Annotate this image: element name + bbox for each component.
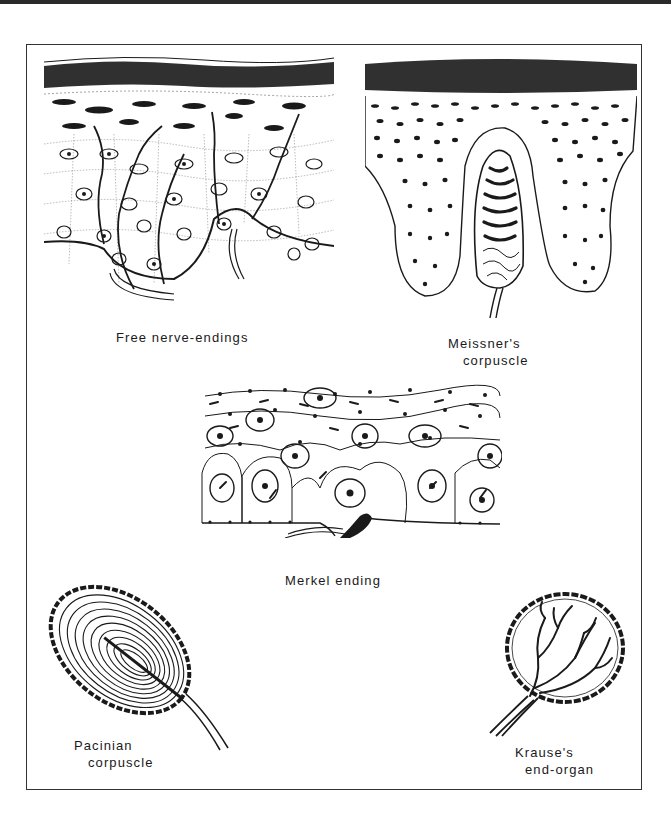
krauses-end-organ-illustration <box>480 588 630 738</box>
label-free-nerve-endings: Free nerve-endings <box>116 330 249 346</box>
label-krauses-line1: Krause's <box>515 745 574 761</box>
page-top-rule <box>0 0 671 4</box>
merkel-ending-illustration <box>200 378 502 538</box>
free-nerve-endings-illustration <box>44 54 334 304</box>
label-pacinian-line2: corpuscle <box>88 755 154 771</box>
label-pacinian-line1: Pacinian <box>74 738 133 754</box>
label-merkel-ending: Merkel ending <box>285 573 381 589</box>
label-meissners-line1: Meissner's <box>448 336 521 352</box>
label-meissners-line2: corpuscle <box>463 353 529 369</box>
pacinian-corpuscle-illustration <box>40 580 235 755</box>
meissners-corpuscle-illustration <box>365 56 637 321</box>
label-krauses-line2: end-organ <box>525 762 594 778</box>
